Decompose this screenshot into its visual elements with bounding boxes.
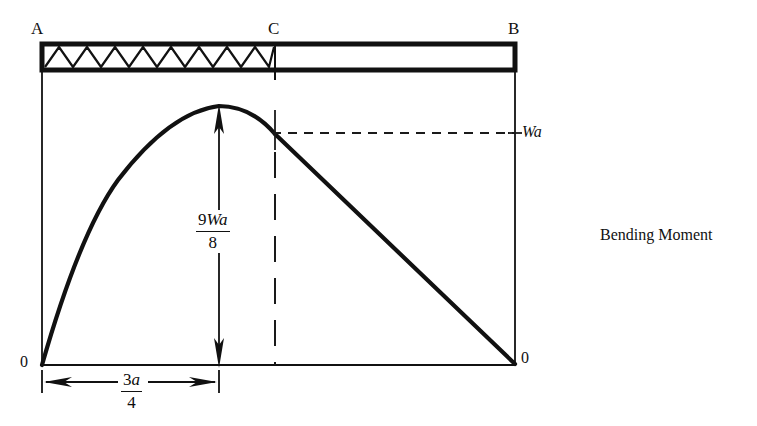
point-label-a: A: [31, 20, 43, 37]
span-dimension-denominator: 4: [121, 393, 142, 412]
max-moment-numerator-coefficient: 9: [198, 210, 207, 229]
max-moment-numerator: 9Wa: [196, 211, 230, 230]
bending-moment-diagram: [0, 0, 757, 426]
span-dimension-value-fraction: 3a 4: [118, 370, 145, 413]
zero-label-right: 0: [521, 350, 529, 366]
zero-label-left: 0: [20, 354, 28, 370]
max-moment-numerator-symbol: Wa: [207, 210, 228, 229]
bending-moment-figure: A C B 0 0 Wa 9Wa 8 3a 4 Bending Moment: [0, 0, 757, 426]
construction-lines-group: [272, 110, 516, 365]
beam-outline: [42, 44, 515, 70]
moment-curve-parabolic-ac: [42, 106, 275, 365]
beam-group: [42, 44, 515, 80]
span-dimension-numerator-symbol: a: [132, 370, 141, 389]
point-label-c: C: [268, 20, 279, 37]
span-dimension-numerator-coefficient: 3: [123, 370, 132, 389]
point-label-b: B: [508, 20, 519, 37]
moment-curve-group: [42, 106, 515, 365]
max-moment-fraction-bar: [196, 231, 230, 233]
max-moment-denominator: 8: [196, 233, 230, 252]
figure-caption: Bending Moment: [600, 227, 712, 243]
wa-value-label: Wa: [522, 124, 542, 140]
span-dimension-numerator: 3a: [121, 371, 142, 390]
span-dimension-fraction-bar: [121, 391, 142, 393]
moment-axes-group: [42, 70, 515, 366]
moment-curve-linear-cb: [275, 134, 515, 364]
max-moment-value-fraction: 9Wa 8: [193, 210, 233, 253]
